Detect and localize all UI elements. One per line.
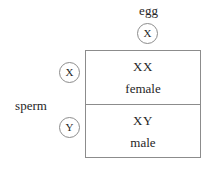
sperm-gamete-y-symbol: Y	[66, 122, 74, 133]
punnett-cell-xx-genotype: XX	[133, 60, 153, 73]
sperm-gamete-x-symbol: X	[66, 67, 74, 78]
punnett-cell-xx-phenotype: female	[125, 82, 160, 95]
punnett-cell-xy-genotype: XY	[133, 114, 153, 127]
egg-axis-label: egg	[0, 4, 217, 17]
sperm-gamete-x: X	[59, 62, 80, 83]
punnett-square-diagram: egg X sperm X Y XX female XY male	[0, 0, 217, 171]
punnett-grid: XX female XY male	[85, 50, 201, 158]
punnett-cell-xy-phenotype: male	[130, 136, 155, 149]
punnett-cell-xx: XX female	[86, 51, 200, 104]
punnett-cell-xy: XY male	[86, 104, 200, 157]
egg-gamete-x-symbol: X	[144, 28, 152, 39]
sperm-axis-label: sperm	[6, 99, 56, 112]
egg-gamete-x: X	[137, 23, 158, 44]
sperm-gamete-y: Y	[59, 117, 80, 138]
